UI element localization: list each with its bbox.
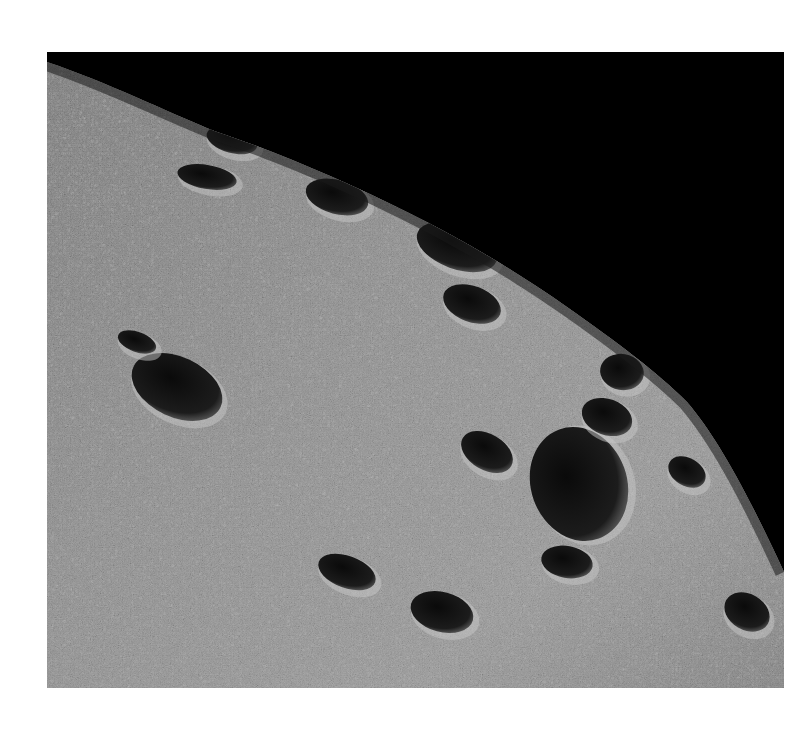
planetary-surface-photo (47, 52, 784, 688)
surface-illustration (47, 52, 784, 688)
